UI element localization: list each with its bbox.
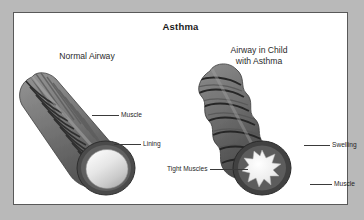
figure-asthma-airway-comparison: Asthma Normal Airway Airway in Child wit…	[0, 0, 364, 220]
leader-line-muscle-left	[92, 115, 119, 116]
leader-line-swelling	[304, 145, 330, 146]
leader-line-muscle-right	[310, 184, 332, 185]
figure-frame: Asthma Normal Airway Airway in Child wit…	[13, 12, 348, 205]
callout-label-muscle-right: Muscle	[334, 180, 355, 187]
leader-line-lining	[114, 144, 141, 145]
callout-label-muscle-left: Muscle	[121, 111, 142, 118]
callout-label-swelling: Swelling	[332, 141, 357, 148]
normal-airway-illustration	[20, 71, 135, 195]
normal-airway-lumen	[86, 150, 128, 189]
asthma-airway-illustration	[197, 64, 291, 195]
airway-illustrations	[14, 13, 349, 206]
callout-label-tight-muscles: Tight Muscles	[167, 165, 207, 172]
leader-line-tight-muscles	[210, 169, 248, 170]
callout-label-lining: Lining	[143, 140, 161, 147]
